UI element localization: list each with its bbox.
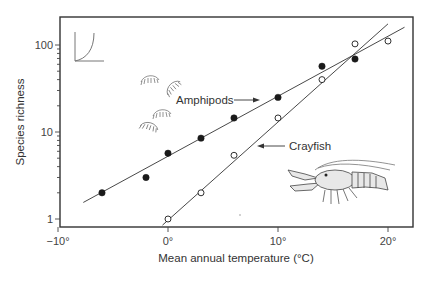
amphipods-data-point bbox=[352, 56, 358, 62]
amphipods-data-point bbox=[165, 150, 171, 156]
amphipods-data-point bbox=[231, 115, 237, 121]
crayfish-data-point bbox=[165, 216, 171, 222]
amphipods-data-point bbox=[198, 135, 204, 141]
x-tick-10: 10° bbox=[270, 235, 287, 247]
amphipods-label: Amphipods bbox=[176, 94, 234, 106]
amphipods-data-point bbox=[143, 174, 149, 180]
crayfish-data-point bbox=[275, 115, 281, 121]
y-tick-labels: 1 10 100 bbox=[35, 39, 53, 225]
species-richness-chart: 1 10 100 −10° 0° 10° 20° Mean annual tem… bbox=[0, 0, 429, 281]
speck bbox=[239, 214, 241, 216]
crayfish-data-point bbox=[198, 190, 204, 196]
x-axis bbox=[58, 227, 388, 232]
x-tick-20: 20° bbox=[380, 235, 397, 247]
y-axis bbox=[55, 45, 60, 219]
crayfish-data-point bbox=[319, 77, 325, 83]
y-axis-label: Species richness bbox=[14, 78, 26, 165]
crayfish-data-point bbox=[385, 38, 391, 44]
amphipods-data-point bbox=[99, 190, 105, 196]
x-tick-0: 0° bbox=[163, 235, 174, 247]
amphipods-data-point bbox=[319, 63, 325, 69]
crayfish-data-point bbox=[352, 41, 358, 47]
crayfish-data-point bbox=[231, 152, 237, 158]
x-axis-label: Mean annual temperature (°C) bbox=[158, 252, 314, 264]
amphipods-data-point bbox=[275, 94, 281, 100]
y-tick-10: 10 bbox=[41, 126, 53, 138]
y-tick-1: 1 bbox=[47, 213, 53, 225]
x-tick-labels: −10° 0° 10° 20° bbox=[46, 235, 396, 247]
y-tick-100: 100 bbox=[35, 39, 53, 51]
crayfish-label: Crayfish bbox=[289, 140, 331, 152]
x-tick-minus10: −10° bbox=[46, 235, 69, 247]
